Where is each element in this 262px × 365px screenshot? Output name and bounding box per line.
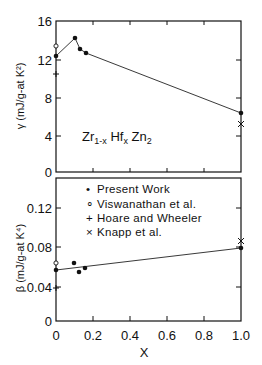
xtick-0.4: 0.4	[121, 328, 139, 343]
xtick-0: 0	[52, 328, 59, 343]
xtick-0.2: 0.2	[84, 328, 102, 343]
bottom-ytick-0: 0	[45, 314, 52, 329]
legend-label-viswanathan: Viswanathan et al.	[97, 198, 196, 210]
legend-symbol-present: •	[86, 183, 90, 195]
bottom-ticks	[56, 208, 241, 321]
xtick-0.6: 0.6	[158, 328, 176, 343]
bottom-panel: 0.12 0.08 0.04 0 β (mJ/g-at K⁴) 0 0.2 0.…	[14, 178, 250, 360]
top-ytick-12: 12	[38, 53, 52, 68]
legend-symbol-hoare: +	[86, 212, 93, 224]
top-ytick-4: 4	[45, 129, 52, 144]
legend-symbol-knapp: ×	[86, 226, 93, 238]
bottom-y-axis-label: β (mJ/g-at K⁴)	[14, 224, 26, 293]
top-hoare-point	[53, 71, 59, 77]
top-panel: 16 12 8 4 0 γ (mJ/g-at K²) Zr1-x Hfx Zn2	[14, 14, 244, 180]
bottom-present-work-points	[54, 246, 244, 275]
top-fit-line	[56, 38, 241, 113]
top-ytick-0: 0	[45, 165, 52, 180]
top-viswanathan-point	[54, 44, 58, 48]
legend-symbol-viswanathan: ∘	[86, 198, 94, 210]
chart-figure: 16 12 8 4 0 γ (mJ/g-at K²) Zr1-x Hfx Zn2…	[0, 0, 262, 365]
bottom-viswanathan-point	[54, 261, 58, 265]
bottom-hoare-point	[53, 285, 59, 291]
legend: • Present Work ∘ Viswanathan et al. + Ho…	[86, 183, 202, 238]
legend-label-hoare: Hoare and Wheeler	[97, 212, 202, 224]
legend-label-knapp: Knapp et al.	[97, 226, 162, 238]
top-y-ticks	[56, 21, 241, 172]
xtick-1.0: 1.0	[232, 328, 250, 343]
bottom-ytick-0.08: 0.08	[27, 240, 52, 255]
top-panel-frame	[56, 21, 241, 172]
bottom-ytick-0.04: 0.04	[27, 280, 52, 295]
x-axis-label: X	[140, 345, 149, 360]
top-y-axis-label: γ (mJ/g-at K²)	[14, 63, 26, 130]
compound-annotation: Zr1-x Hfx Zn2	[82, 129, 152, 146]
bottom-ytick-0.12: 0.12	[27, 201, 52, 216]
top-ytick-8: 8	[45, 91, 52, 106]
xtick-0.8: 0.8	[195, 328, 213, 343]
top-ytick-16: 16	[38, 14, 52, 29]
legend-label-present: Present Work	[97, 183, 170, 195]
